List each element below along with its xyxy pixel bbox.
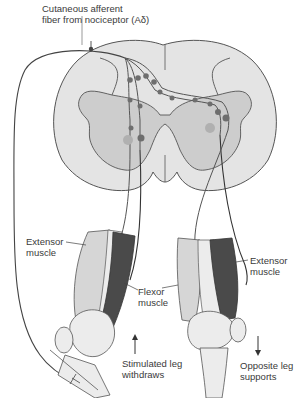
right-knee	[188, 311, 234, 350]
right-shin	[200, 348, 228, 398]
left-extensor-label-line1: Extensor	[26, 236, 64, 247]
left-patella	[55, 327, 73, 353]
arrow-down-icon	[255, 336, 261, 356]
right-patella	[230, 318, 246, 342]
stimulated-label-line1: Stimulated leg	[122, 358, 182, 369]
afferent-label-line1: Cutaneous afferent	[42, 3, 123, 14]
nociceptor-soma-icon	[89, 47, 93, 51]
right-extensor-label-line1: Extensor	[250, 255, 288, 266]
motor-neuron-pale-left	[123, 135, 133, 145]
stimulated-label-line2: withdraws	[122, 369, 164, 380]
arrow-up-icon	[132, 334, 138, 354]
right-extensor-label-line2: muscle	[250, 266, 280, 277]
reflex-diagram	[0, 0, 305, 398]
right-leg	[177, 238, 246, 398]
flexor-label-line2: muscle	[138, 297, 168, 308]
right-flexor-muscle	[177, 238, 201, 322]
left-shin	[58, 355, 110, 398]
motor-neuron-pale-right	[205, 123, 215, 133]
left-extensor-label-line2: muscle	[26, 247, 56, 258]
opposite-label-line2: supports	[240, 371, 276, 382]
left-knee	[70, 310, 115, 357]
opposite-label-line1: Opposite leg	[240, 360, 293, 371]
flexor-label-line1: Flexor	[138, 286, 164, 297]
afferent-label-line2: fiber from nociceptor (Aδ)	[42, 14, 149, 25]
